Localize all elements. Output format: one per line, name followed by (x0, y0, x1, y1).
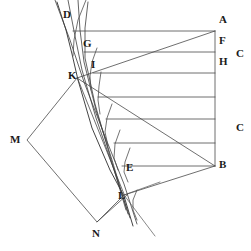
point-label-D: D (63, 9, 71, 20)
figure-container: A D F C G H I K C M B E L N (0, 0, 251, 251)
line-A-to-K (77, 31, 215, 78)
ray-diagram-svg (0, 0, 251, 251)
point-label-H: H (219, 56, 228, 67)
point-label-E: E (126, 162, 133, 173)
point-label-G: G (83, 38, 92, 49)
ray-L-right (124, 182, 160, 195)
point-label-I: I (91, 59, 95, 70)
point-label-C-lower: C (236, 122, 244, 133)
point-label-N: N (92, 228, 100, 239)
point-label-K: K (68, 70, 77, 81)
point-label-B: B (219, 159, 226, 170)
point-label-L: L (118, 190, 125, 201)
arc-L (133, 190, 137, 220)
line-B-to-L (124, 166, 215, 195)
ray-bundle-4 (85, 2, 126, 210)
point-label-A: A (219, 14, 227, 25)
ray-L-down-right (124, 195, 155, 236)
horizontal-ray-group (73, 31, 215, 166)
point-label-F: F (219, 35, 226, 46)
extra-ray-group (97, 182, 160, 236)
point-label-C-upper: C (236, 48, 244, 59)
arc-low (114, 130, 120, 170)
point-label-M: M (10, 134, 20, 145)
prism-M-K-L-N (27, 78, 124, 222)
